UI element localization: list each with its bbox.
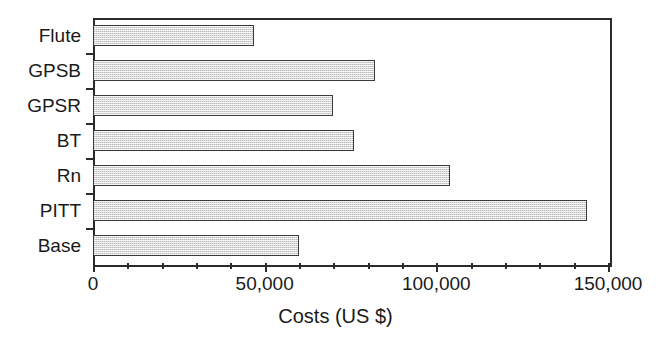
y-axis-label-rn: Rn xyxy=(57,166,81,186)
y-axis-category-labels: FluteGPSBGPSRBTRnPITTBase xyxy=(0,18,88,263)
y-axis-tick xyxy=(86,158,94,160)
x-axis-major-tick xyxy=(436,263,438,272)
x-axis-minor-tick xyxy=(230,263,232,269)
x-axis-minor-tick xyxy=(299,263,301,269)
x-axis-tick-label: 150,000 xyxy=(574,274,643,294)
x-axis-title: Costs (US $) xyxy=(0,305,671,327)
x-axis-minor-tick xyxy=(368,263,370,269)
bar-base[interactable] xyxy=(93,235,299,256)
bar-gpsr[interactable] xyxy=(93,95,333,116)
bar-row xyxy=(93,60,608,81)
bars-layer xyxy=(93,18,610,265)
bar-pitt[interactable] xyxy=(93,200,587,221)
bar-row xyxy=(93,235,608,256)
x-axis-minor-tick xyxy=(539,263,541,269)
bar-rn[interactable] xyxy=(93,165,450,186)
y-axis-label-gpsr: GPSR xyxy=(27,96,81,116)
bar-row xyxy=(93,95,608,116)
x-axis-minor-tick xyxy=(471,263,473,269)
bar-chart: FluteGPSBGPSRBTRnPITTBase 050,000100,000… xyxy=(0,0,671,344)
y-axis-tick xyxy=(86,193,94,195)
x-axis-minor-tick xyxy=(127,263,129,269)
y-axis-tick xyxy=(86,123,94,125)
x-axis-minor-tick xyxy=(574,263,576,269)
y-axis-label-flute: Flute xyxy=(39,26,81,46)
bar-gpsb[interactable] xyxy=(93,60,375,81)
x-axis-minor-tick xyxy=(333,263,335,269)
y-axis-label-bt: BT xyxy=(57,131,81,151)
y-axis-tick xyxy=(86,88,94,90)
x-axis-major-tick xyxy=(93,263,95,272)
x-axis-minor-tick xyxy=(402,263,404,269)
y-axis-label-gpsb: GPSB xyxy=(28,61,81,81)
bar-bt[interactable] xyxy=(93,130,354,151)
bar-row xyxy=(93,130,608,151)
x-axis-tick-label: 0 xyxy=(88,274,99,294)
x-axis-major-tick xyxy=(608,263,610,272)
y-axis-tick xyxy=(86,228,94,230)
x-axis-tick-label: 50,000 xyxy=(236,274,294,294)
x-axis-minor-tick xyxy=(162,263,164,269)
y-axis-label-base: Base xyxy=(38,236,81,256)
y-axis-label-pitt: PITT xyxy=(40,201,81,221)
x-axis-minor-tick xyxy=(505,263,507,269)
x-axis-minor-tick xyxy=(196,263,198,269)
bar-row xyxy=(93,25,608,46)
x-axis-tick-label: 100,000 xyxy=(402,274,471,294)
bar-row xyxy=(93,200,608,221)
x-axis-major-tick xyxy=(265,263,267,272)
bar-row xyxy=(93,165,608,186)
y-axis-tick xyxy=(86,53,94,55)
bar-flute[interactable] xyxy=(93,25,254,46)
